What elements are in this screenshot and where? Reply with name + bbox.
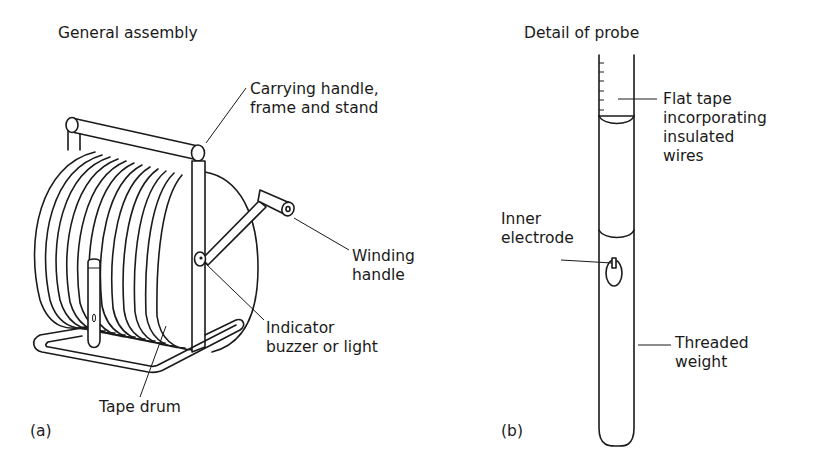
panel-b-title: Detail of probe	[524, 24, 639, 43]
panel-a-label: (a)	[30, 422, 52, 441]
leader-frame	[206, 88, 246, 143]
callout-tape-drum: Tape drum	[99, 398, 181, 417]
callout-indicator: Indicator buzzer or light	[266, 319, 378, 357]
leader-lines-b	[561, 99, 671, 345]
winding-handle-crank	[202, 201, 266, 265]
callout-carrying-handle: Carrying handle, frame and stand	[250, 80, 379, 118]
reel-assembly	[34, 118, 296, 373]
leader-winding-handle	[294, 218, 349, 250]
probe-holder	[88, 259, 100, 348]
tape-drum	[35, 152, 195, 350]
inner-electrode	[612, 258, 616, 268]
callout-threaded-weight: Threaded weight	[675, 334, 749, 372]
panel-b-label: (b)	[501, 422, 523, 441]
drum-flange	[205, 172, 258, 352]
callout-winding-handle: Winding handle	[352, 247, 415, 285]
leader-indicator	[204, 262, 264, 320]
callout-flat-tape: Flat tape incorporating insulated wires	[663, 90, 767, 166]
probe	[599, 55, 634, 446]
callout-inner-electrode: Inner electrode	[501, 210, 574, 248]
leader-tape-drum	[140, 326, 166, 397]
panel-a-title: General assembly	[58, 24, 198, 43]
probe-body	[599, 116, 634, 446]
leader-inner-electrode	[561, 260, 612, 263]
